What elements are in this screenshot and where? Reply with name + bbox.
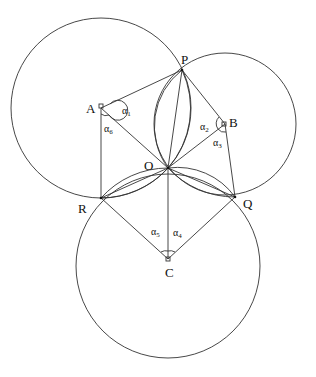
label-o: O	[144, 158, 153, 173]
segment-pb	[182, 70, 225, 124]
label-c: C	[165, 265, 174, 280]
label-a: A	[86, 101, 96, 116]
label-alpha6: α6	[104, 123, 113, 136]
point-r	[100, 197, 103, 200]
label-alpha5: α5	[151, 226, 160, 239]
geometry-diagram: P A B O R Q C α1 α6 α2 α3 α4 α5	[0, 0, 316, 377]
lens-arc-po-left	[154, 70, 182, 168]
segment-oa	[101, 108, 168, 168]
angle-arc-alpha3	[218, 129, 226, 132]
label-alpha1: α1	[122, 105, 131, 118]
segment-oq	[168, 168, 235, 197]
label-alpha3: α3	[213, 137, 222, 150]
point-o	[167, 167, 170, 170]
label-alpha2: α2	[200, 121, 209, 134]
label-alpha4: α4	[173, 227, 182, 240]
label-b: B	[229, 115, 238, 130]
angle-arc-alpha5	[161, 251, 168, 252]
segment-cr	[101, 198, 168, 259]
label-r: R	[78, 201, 87, 216]
segment-ap	[101, 70, 182, 108]
label-p: P	[181, 52, 188, 67]
point-p	[181, 69, 184, 72]
angle-arc-alpha2	[216, 117, 219, 129]
segment-or	[101, 168, 168, 198]
angle-markers	[99, 100, 226, 261]
point-q	[234, 196, 237, 199]
angle-arc-alpha4	[168, 251, 175, 252]
label-q: Q	[243, 196, 253, 211]
segment-op	[168, 70, 182, 168]
segment-bq	[225, 124, 235, 197]
